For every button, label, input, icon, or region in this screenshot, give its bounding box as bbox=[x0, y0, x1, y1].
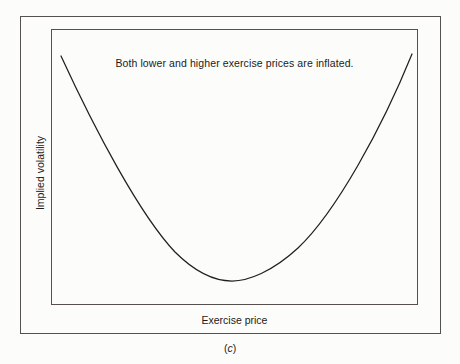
chart-annotation-text: Both lower and higher exercise prices ar… bbox=[51, 57, 418, 69]
y-axis-label: Implied volatility bbox=[34, 113, 46, 233]
figure-caption: (c) bbox=[0, 342, 460, 354]
caption-close-paren: ) bbox=[233, 342, 237, 354]
figure-container: Both lower and higher exercise prices ar… bbox=[0, 0, 460, 364]
plot-area-border bbox=[51, 29, 418, 305]
x-axis-label: Exercise price bbox=[51, 314, 418, 326]
